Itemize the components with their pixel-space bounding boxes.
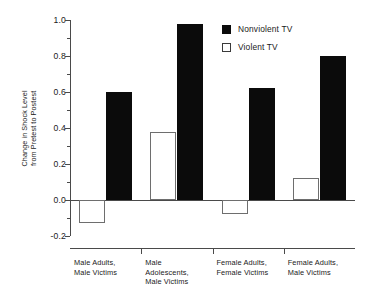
category-label-line: Male Victims — [74, 268, 141, 278]
category-label-line: Adolescents, — [145, 268, 212, 278]
legend-label: Nonviolent TV — [238, 25, 292, 34]
bar-nonviolent-tv-0 — [106, 92, 132, 200]
category-label-line: Male Victims — [145, 277, 212, 287]
category-separator — [284, 248, 285, 254]
bar-violent-tv-3 — [293, 178, 319, 200]
category-label-3: Female Adults,Male Victims — [288, 258, 355, 277]
category-label-2: Female Adults,Female Victims — [217, 258, 284, 277]
y-tick-label: -0.2 — [33, 232, 66, 241]
y-tick-major — [65, 236, 70, 237]
category-separator — [141, 248, 142, 254]
bar-violent-tv-0 — [79, 200, 105, 223]
legend-entry-0: Nonviolent TV — [222, 24, 342, 34]
category-axis-rule — [70, 248, 355, 255]
chart-legend: Nonviolent TVViolent TV — [222, 24, 342, 60]
category-label-line: Male Victims — [288, 268, 355, 278]
legend-swatch-filled-icon — [222, 25, 231, 34]
y-tick-label: 0.0 — [33, 196, 66, 205]
category-label-line: Female Adults, — [217, 258, 284, 268]
y-axis-tick-labels: -0.20.00.20.40.60.81.0 — [33, 0, 66, 297]
category-label-1: MaleAdolescents,Male Victims — [145, 258, 212, 287]
legend-swatch-open-icon — [222, 43, 231, 52]
y-axis-label-line-1: Change in Shock Level — [20, 90, 29, 166]
bar-nonviolent-tv-1 — [177, 24, 203, 200]
chart-figure: Change in Shock Level from Pretest to Po… — [0, 0, 369, 297]
category-label-line: Female Adults, — [288, 258, 355, 268]
category-separator — [213, 248, 214, 254]
bar-nonviolent-tv-2 — [249, 88, 275, 200]
y-tick-label: 1.0 — [33, 16, 66, 25]
x-axis-category-labels: Male Adults,Male VictimsMaleAdolescents,… — [70, 258, 355, 296]
y-tick-label: 0.2 — [33, 160, 66, 169]
category-label-line: Male — [145, 258, 212, 268]
bar-violent-tv-2 — [222, 200, 248, 214]
bar-nonviolent-tv-3 — [320, 56, 346, 200]
legend-entry-1: Violent TV — [222, 42, 342, 52]
y-tick-label: 0.6 — [33, 88, 66, 97]
category-label-line: Female Victims — [217, 268, 284, 278]
y-tick-label: 0.8 — [33, 52, 66, 61]
y-tick-label: 0.4 — [33, 124, 66, 133]
bar-violent-tv-1 — [150, 132, 176, 200]
category-label-0: Male Adults,Male Victims — [74, 258, 141, 277]
category-label-line: Male Adults, — [74, 258, 141, 268]
legend-label: Violent TV — [238, 43, 278, 52]
